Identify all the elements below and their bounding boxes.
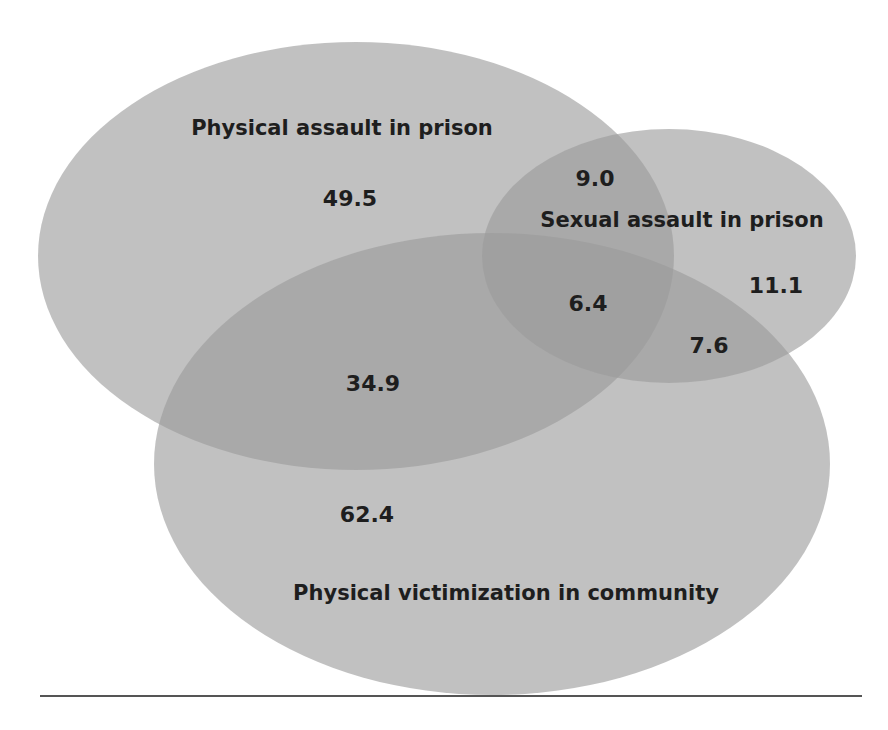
bottom-divider (40, 695, 862, 697)
label-sexual-assault-prison: Sexual assault in prison (540, 208, 823, 232)
value-a-and-b: 9.0 (576, 166, 615, 191)
value-b-and-c: 7.6 (690, 333, 729, 358)
venn-diagram: Physical assault in prison Sexual assaul… (0, 0, 888, 730)
set-sexual-assault-prison (482, 129, 856, 383)
value-a-only: 49.5 (323, 186, 377, 211)
value-a-and-c: 34.9 (346, 371, 400, 396)
label-physical-victimization-community: Physical victimization in community (293, 581, 719, 605)
value-b-only: 11.1 (749, 273, 803, 298)
value-c-only: 62.4 (340, 502, 394, 527)
value-a-b-c: 6.4 (569, 291, 608, 316)
label-physical-assault-prison: Physical assault in prison (191, 116, 493, 140)
